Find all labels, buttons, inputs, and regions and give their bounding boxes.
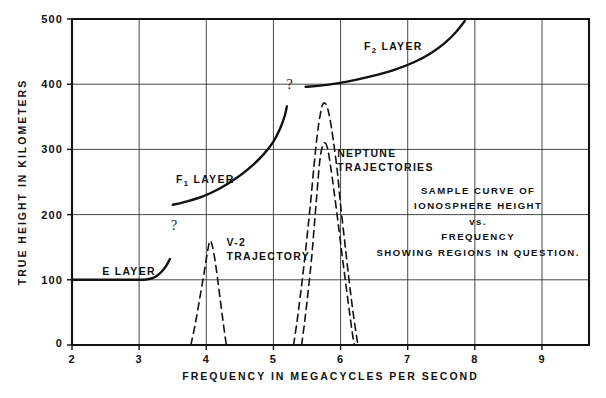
caption-line-2: IONOSPHERE HEIGHT (414, 200, 542, 211)
xtick-label-5: 5 (270, 353, 277, 365)
plot-frame (72, 19, 589, 345)
ytick-label-300: 300 (41, 143, 63, 155)
caption-line-5: SHOWING REGIONS IN QUESTION. (376, 247, 580, 258)
xtick-label-3: 3 (136, 353, 143, 365)
chart-caption: SAMPLE CURVE OFIONOSPHERE HEIGHTvs.FREQU… (376, 185, 580, 258)
gridlines (72, 19, 589, 345)
question-mark-f1-upper: ? (286, 77, 292, 92)
y-axis-title: TRUE HEIGHT IN KILOMETERS (16, 79, 28, 285)
ytick-label-400: 400 (41, 78, 63, 90)
plot-border (72, 19, 589, 345)
label-e-layer: E LAYER (102, 265, 156, 277)
caption-line-4: FREQUENCY (441, 231, 515, 242)
xtick-label-4: 4 (203, 353, 210, 365)
data-curves (73, 21, 464, 345)
xtick-label-2: 2 (68, 353, 75, 365)
ionosphere-height-vs-frequency-chart: 234567890100200300400500 E LAYERF1 LAYER… (0, 0, 606, 398)
ytick-label-500: 500 (41, 13, 63, 25)
curve-f2-layer (306, 21, 465, 87)
caption-line-3: vs. (469, 216, 487, 227)
question-mark-f1-lower: ? (171, 218, 177, 233)
xtick-label-6: 6 (337, 353, 344, 365)
label-v-2-trajectory: V-2TRAJECTORY (226, 236, 310, 262)
xtick-label-7: 7 (404, 353, 411, 365)
curve-labels: E LAYERF1 LAYERF2 LAYERV-2TRAJECTORYNEPT… (102, 40, 434, 276)
curve-f1-layer (173, 106, 287, 204)
caption-line-1: SAMPLE CURVE OF (421, 185, 536, 196)
label-f2-layer: F2 LAYER (364, 40, 423, 55)
ytick-label-100: 100 (41, 274, 63, 286)
xtick-label-8: 8 (471, 353, 478, 365)
x-axis-title: FREQUENCY IN MEGACYCLES PER SECOND (182, 370, 479, 382)
ytick-label-0: 0 (56, 337, 63, 349)
curve-v-2-trajectory (191, 241, 227, 345)
ytick-label-200: 200 (41, 209, 63, 221)
xtick-label-9: 9 (538, 353, 545, 365)
label-neptune-trajectory-a: NEPTUNETRAJECTORIES (337, 147, 434, 173)
chart-annotations: ?? (171, 77, 293, 233)
chart-canvas: 234567890100200300400500 E LAYERF1 LAYER… (0, 0, 606, 398)
axis-titles: FREQUENCY IN MEGACYCLES PER SECONDTRUE H… (16, 79, 479, 382)
